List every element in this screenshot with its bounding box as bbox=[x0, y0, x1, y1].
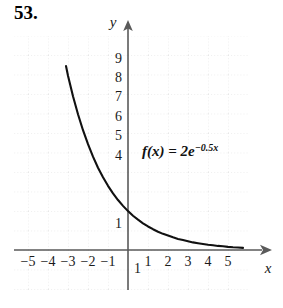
y-tick-label: 1 bbox=[115, 216, 122, 231]
y-tick-label: 8 bbox=[115, 70, 122, 85]
grid bbox=[14, 36, 248, 290]
y-tick-label: 5 bbox=[115, 128, 122, 143]
x-tick-label: 3 bbox=[185, 254, 192, 269]
x-axis-label: x bbox=[264, 260, 272, 276]
function-label-base: f(x) = 2e bbox=[142, 143, 195, 160]
y-tick-label: 6 bbox=[115, 109, 122, 124]
y-tick-label: 9 bbox=[115, 51, 122, 66]
x-tick-label: −3 bbox=[61, 254, 76, 269]
x-tick-label: 5 bbox=[225, 254, 232, 269]
x-tick-label: −4 bbox=[41, 254, 56, 269]
x-tick-label: 4 bbox=[205, 254, 212, 269]
exponential-decay-graph: y x 9 8 7 6 5 4 1 1 −5 −4 −3 −2 −1 1 2 3… bbox=[0, 0, 283, 308]
x-tick-label: −1 bbox=[101, 254, 116, 269]
y-axis-label: y bbox=[108, 14, 117, 30]
figure-page: 53. y x 9 8 7 6 5 4 1 1 −5 bbox=[0, 0, 283, 308]
y-tick-label: 4 bbox=[115, 148, 122, 163]
y-tick-label: 7 bbox=[115, 89, 122, 104]
x-tick-label: −2 bbox=[81, 254, 96, 269]
x-tick-label: 2 bbox=[165, 254, 172, 269]
x-tick-label: 1 bbox=[145, 254, 152, 269]
x-tick-label: −5 bbox=[21, 254, 36, 269]
function-label-exponent: −0.5x bbox=[195, 142, 219, 153]
y-tick-label-negative-one: 1 bbox=[134, 261, 141, 276]
